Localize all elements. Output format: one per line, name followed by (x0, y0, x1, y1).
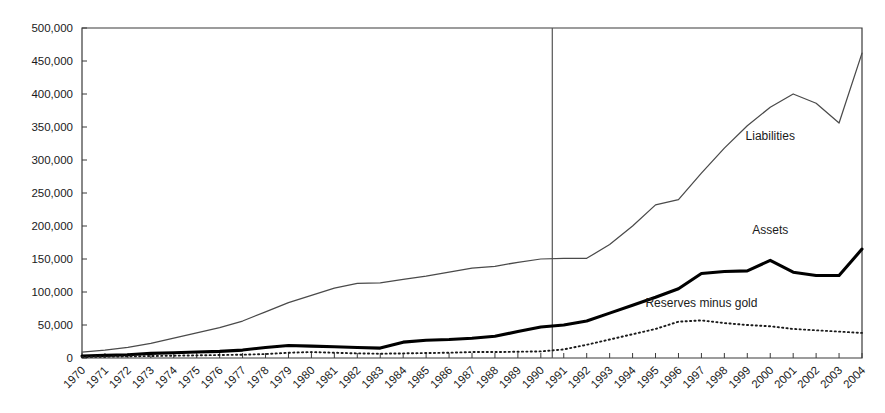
x-tick-label: 1974 (153, 364, 180, 391)
x-tick-label: 1976 (198, 364, 225, 391)
x-tick-label: 2003 (818, 364, 845, 391)
x-tick-label: 2004 (841, 364, 868, 391)
y-tick-label: 400,000 (31, 88, 73, 100)
y-tick-label: 350,000 (31, 121, 73, 133)
x-tick-label: 2002 (795, 364, 822, 391)
x-tick-label: 1986 (428, 364, 455, 391)
x-tick-label: 2001 (772, 364, 799, 391)
x-tick-label: 1990 (520, 364, 547, 391)
x-tick-label: 1992 (566, 364, 593, 391)
series-annotation-label: Reserves minus gold (645, 296, 757, 310)
y-tick-label: 150,000 (31, 253, 73, 265)
y-tick-label: 0 (67, 352, 73, 364)
x-tick-label: 1987 (451, 364, 478, 391)
y-tick-label: 500,000 (31, 22, 73, 34)
series-annotation-label: Assets (752, 223, 788, 237)
x-tick-label: 1991 (543, 364, 570, 391)
x-tick-label: 1982 (336, 364, 363, 391)
line-chart: 050,000100,000150,000200,000250,000300,0… (0, 0, 885, 413)
x-tick-label: 1988 (474, 364, 501, 391)
x-tick-label: 1985 (405, 364, 432, 391)
y-tick-label: 100,000 (31, 286, 73, 298)
x-tick-label: 1975 (176, 364, 203, 391)
y-tick-label: 450,000 (31, 55, 73, 67)
x-tick-label: 1979 (267, 364, 294, 391)
x-tick-label: 1972 (107, 364, 134, 391)
x-tick-label: 1995 (634, 364, 661, 391)
x-tick-label: 1971 (84, 364, 111, 391)
x-axis-tick-labels: 1970197119721973197419751976197719781979… (61, 364, 868, 391)
y-tick-label: 300,000 (31, 154, 73, 166)
y-tick-label: 50,000 (38, 319, 73, 331)
x-tick-label: 1989 (497, 364, 524, 391)
y-tick-label: 200,000 (31, 220, 73, 232)
x-tick-label: 1983 (359, 364, 386, 391)
y-tick-label: 250,000 (31, 187, 73, 199)
x-tick-label: 1996 (657, 364, 684, 391)
x-tick-label: 1980 (290, 364, 317, 391)
x-tick-label: 2000 (749, 364, 776, 391)
x-tick-label: 1970 (61, 364, 88, 391)
x-tick-label: 1978 (244, 364, 271, 391)
x-tick-label: 1973 (130, 364, 157, 391)
x-tick-label: 1997 (680, 364, 707, 391)
x-tick-label: 1998 (703, 364, 730, 391)
x-tick-label: 1999 (726, 364, 753, 391)
x-tick-label: 1981 (313, 364, 340, 391)
x-tick-label: 1994 (611, 364, 638, 391)
series-annotation-label: Liabilities (746, 129, 795, 143)
x-tick-label: 1993 (588, 364, 615, 391)
x-tick-label: 1977 (221, 364, 248, 391)
chart-container: 050,000100,000150,000200,000250,000300,0… (0, 0, 885, 413)
x-tick-label: 1984 (382, 364, 409, 391)
y-axis-tick-labels: 050,000100,000150,000200,000250,000300,0… (31, 22, 73, 364)
